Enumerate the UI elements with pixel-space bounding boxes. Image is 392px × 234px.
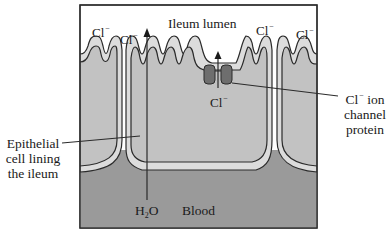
channel-subunit-right — [221, 65, 232, 84]
epithelial-callout-line-2: cell lining — [1, 151, 65, 166]
epithelial-callout-line-1: Epithelial — [1, 136, 65, 151]
cl-ion-label-3: Cl− — [256, 20, 274, 38]
lumen-label: Ileum lumen — [168, 17, 237, 31]
epithelial-cell-left — [80, 46, 117, 166]
ileum-diagram — [0, 0, 392, 234]
cl-ion-label-4: Cl− — [296, 24, 314, 42]
water-label: H2O — [135, 204, 159, 223]
epithelial-cell-callout: Epithelial cell lining the ileum — [1, 136, 65, 181]
channel-callout-line-3: protein — [338, 122, 392, 137]
blood-label: Blood — [182, 204, 215, 218]
epithelial-callout-line-3: the ileum — [1, 166, 65, 181]
cl-ion-label-1: Cl− — [92, 22, 110, 40]
cl-ion-label-2: Cl− — [120, 29, 138, 47]
channel-subunit-left — [204, 65, 215, 84]
cl-ion-label-channel: Cl− — [210, 92, 228, 110]
channel-callout-line-1: Cl− ion — [338, 88, 392, 107]
channel-callout-line-2: channel — [338, 107, 392, 122]
channel-protein-callout: Cl− ion channel protein — [338, 88, 392, 137]
epithelial-cell-right — [282, 47, 317, 166]
